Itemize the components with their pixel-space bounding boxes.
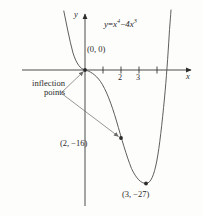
y-axis-label: y bbox=[74, 10, 78, 19]
minimum-dot-three bbox=[144, 182, 148, 186]
x-axis-label: x bbox=[186, 72, 190, 81]
leader-line-to-point-two bbox=[61, 93, 119, 137]
x-tick-label-2: 2 bbox=[118, 74, 122, 83]
plot-canvas bbox=[0, 0, 203, 216]
origin-point-label: (0, 0) bbox=[87, 45, 105, 54]
graph-figure: y x y=x4−4x3 2 3 (0, 0) inflection point… bbox=[0, 0, 203, 216]
point-label-two: (2, −16) bbox=[60, 139, 87, 148]
quartic-curve bbox=[64, 10, 171, 184]
equation-label: y=x4−4x3 bbox=[104, 18, 137, 29]
inflection-points-note: inflection points bbox=[3, 79, 65, 97]
inflection-note-line2: points bbox=[3, 88, 65, 97]
x-tick-label-3: 3 bbox=[136, 74, 140, 83]
point-label-three: (3, −27) bbox=[122, 190, 149, 199]
equation-term2-exponent: 3 bbox=[134, 17, 137, 24]
inflection-dot-origin bbox=[83, 68, 87, 72]
inflection-dot-two bbox=[119, 136, 123, 140]
